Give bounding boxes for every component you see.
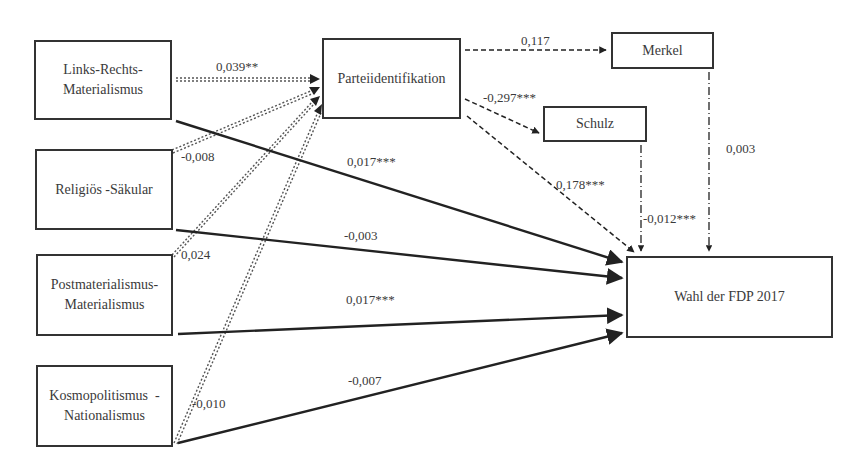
node-kosmopolitismus: Kosmopolitismus -Nationalismus xyxy=(36,365,173,447)
node-label: Kosmopolitismus - xyxy=(49,388,159,403)
node-label: Nationalismus xyxy=(64,408,145,423)
label-kosmo-partei: -0,010 xyxy=(192,396,226,412)
label-rel-wahl: -0,003 xyxy=(344,228,378,244)
label-lr-wahl: 0,017*** xyxy=(347,154,396,170)
node-parteiidentifikation: Parteiidentifikation xyxy=(322,38,461,119)
edge-post-partei xyxy=(172,101,315,257)
edge-rel-partei xyxy=(172,90,314,153)
edge-lr-partei xyxy=(176,78,313,81)
node-religioes: Religiös -Säkular xyxy=(35,149,173,230)
label-merkel-wahl: 0,003 xyxy=(726,141,755,157)
label-partei-schulz: -0,297*** xyxy=(483,90,536,106)
node-label: Parteiidentifikation xyxy=(337,69,445,89)
node-label: Links-Rechts- xyxy=(63,62,142,77)
label-partei-merkel: 0,117 xyxy=(521,33,550,49)
label-post-partei: 0,024 xyxy=(181,247,210,263)
label-kosmo-wahl: -0,007 xyxy=(348,373,382,389)
node-label: Postmaterialismus- xyxy=(51,277,158,292)
label-schulz-wahl: -0,012*** xyxy=(643,211,696,227)
label-post-wahl: 0,017*** xyxy=(346,292,395,308)
node-postmaterialismus: Postmaterialismus-Materialismus xyxy=(36,254,173,336)
edge-rel-wahl xyxy=(176,230,622,278)
label-lr-partei: 0,039** xyxy=(216,59,258,75)
node-wahl-fdp-2017: Wahl der FDP 2017 xyxy=(626,256,833,338)
node-label: Schulz xyxy=(576,114,614,134)
edge-post-wahl xyxy=(178,315,622,334)
label-rel-partei: -0,008 xyxy=(181,149,215,165)
node-label: Religiös -Säkular xyxy=(55,180,153,200)
label-partei-wahl: 0,178*** xyxy=(556,177,605,193)
node-label: Materialismus xyxy=(64,297,144,312)
edge-kosmo-wahl xyxy=(178,333,622,443)
node-merkel: Merkel xyxy=(611,32,714,69)
node-links-rechts: Links-Rechts-Materialismus xyxy=(34,40,172,120)
node-label: Materialismus xyxy=(63,82,143,97)
node-label: Merkel xyxy=(642,41,682,61)
node-schulz: Schulz xyxy=(543,106,647,142)
node-label: Wahl der FDP 2017 xyxy=(674,287,785,307)
